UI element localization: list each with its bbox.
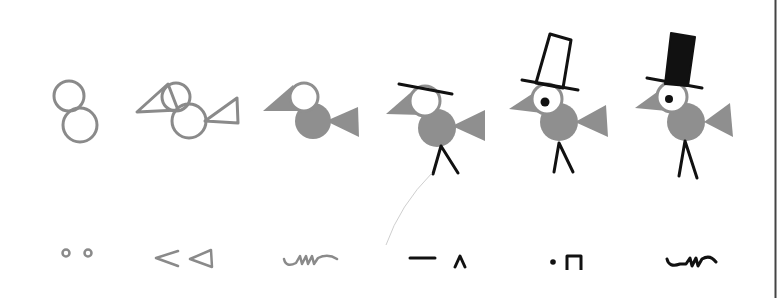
legs — [679, 141, 697, 178]
beak-triangle — [137, 84, 178, 112]
figure-3-filled-bird — [263, 83, 359, 139]
top-hat-crown-filled — [665, 33, 695, 86]
tail-triangle — [452, 110, 485, 141]
glyph-1-two-circles — [63, 250, 92, 257]
top-hat-crown-outline — [536, 34, 571, 88]
glyph-4-dash-caret — [410, 256, 465, 267]
eye-dot — [665, 95, 673, 103]
glyph-6-black-squiggle — [667, 257, 716, 266]
tail-triangle — [575, 105, 608, 137]
figure-6-bird-black-top-hat — [635, 33, 733, 178]
legs — [554, 143, 573, 172]
eye-dot — [541, 98, 550, 107]
head-circle — [54, 81, 84, 111]
figure-4-bird-with-brim — [386, 84, 485, 174]
legs — [433, 146, 458, 174]
illustration-canvas: Bird drawing stages and shorthand symbol… — [0, 0, 783, 305]
bird-sequence-drawing — [0, 0, 783, 305]
figure-2-outline-bird — [137, 83, 238, 138]
glyph-3-gray-squiggle — [284, 256, 337, 265]
glyph-5-dot-pi — [550, 256, 581, 270]
glyph-2-angle-triangle — [156, 250, 212, 267]
body-circle — [172, 104, 206, 138]
figure-1-two-circles — [54, 81, 97, 142]
pointer-curve — [386, 173, 432, 245]
tail-triangle — [205, 98, 238, 123]
head-circle — [290, 83, 318, 111]
figure-5-bird-outline-top-hat — [509, 34, 608, 172]
tail-triangle — [704, 103, 733, 137]
body-circle — [63, 108, 97, 142]
